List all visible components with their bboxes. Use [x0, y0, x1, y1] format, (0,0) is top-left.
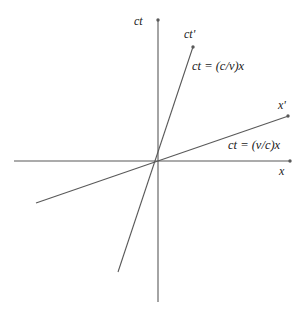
- ct-prime-axis-label: ct': [184, 28, 195, 40]
- diagram-svg: [0, 0, 308, 316]
- ct-prime-endpoint-dot: [191, 45, 194, 48]
- ct-axis-label: ct: [134, 15, 143, 27]
- x-axis-endpoint-dot: [288, 159, 291, 162]
- x-axis-label: x: [279, 165, 284, 177]
- ct-prime-equation-label: ct = (c/v)x: [192, 60, 244, 73]
- ct-prime-line: [118, 48, 193, 272]
- x-prime-line: [36, 116, 287, 203]
- x-prime-equation-label: ct = (v/c)x: [228, 139, 280, 152]
- spacetime-diagram-canvas: ct ct' x x' ct = (c/v)x ct = (v/c)x: [0, 0, 308, 316]
- ct-axis-endpoint-dot: [156, 18, 159, 21]
- x-prime-endpoint-dot: [286, 114, 289, 117]
- x-prime-axis-label: x': [278, 99, 286, 111]
